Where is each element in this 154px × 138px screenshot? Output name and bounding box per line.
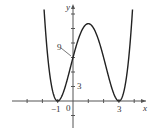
annotation-9: 9 [57, 43, 62, 52]
y-tick-label-3: 3 [77, 82, 82, 91]
function-graph [0, 0, 154, 138]
curve [44, 9, 132, 101]
y-axis-label: y [66, 3, 70, 12]
origin-label: 0 [66, 104, 71, 113]
x-tick-label-3: 3 [117, 105, 122, 114]
y-arrow-icon [71, 4, 75, 9]
x-axis-label: x [143, 104, 147, 113]
annotation-leader [61, 48, 71, 56]
x-tick-label-neg1: −1 [51, 105, 61, 114]
